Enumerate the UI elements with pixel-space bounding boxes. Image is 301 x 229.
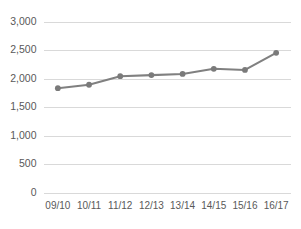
x-axis-tick-label: 10/11 [77,200,102,211]
data-point-marker [273,50,279,56]
data-point-marker [211,66,217,72]
line-chart: 05001,0001,5002,0002,5003,000 09/1010/11… [0,0,301,229]
chart-canvas: 05001,0001,5002,0002,5003,000 09/1010/11… [0,0,301,229]
y-axis-tick-label: 1,000 [10,129,36,141]
y-axis-tick-label: 2,500 [10,43,36,55]
x-axis-tick-label: 11/12 [108,200,133,211]
data-point-marker [55,85,61,91]
data-point-marker [86,82,92,88]
x-axis-tick-label: 14/15 [201,200,226,211]
data-point-marker [149,72,155,78]
x-axis-tick-label: 09/10 [45,200,70,211]
chart-background [0,0,301,229]
x-axis-tick-label: 12/13 [139,200,164,211]
y-axis-tick-label: 2,000 [10,72,36,84]
x-axis-tick-label: 16/17 [264,200,289,211]
data-point-marker [180,71,186,77]
data-point-marker [117,73,123,79]
y-axis-tick-label: 3,000 [10,15,36,27]
x-axis-tick-label: 15/16 [232,200,257,211]
y-axis-tick-label: 500 [19,157,37,169]
y-axis-tick-label: 0 [31,186,37,198]
data-point-marker [242,67,248,73]
x-axis-tick-label: 13/14 [170,200,195,211]
y-axis-tick-label: 1,500 [10,100,36,112]
